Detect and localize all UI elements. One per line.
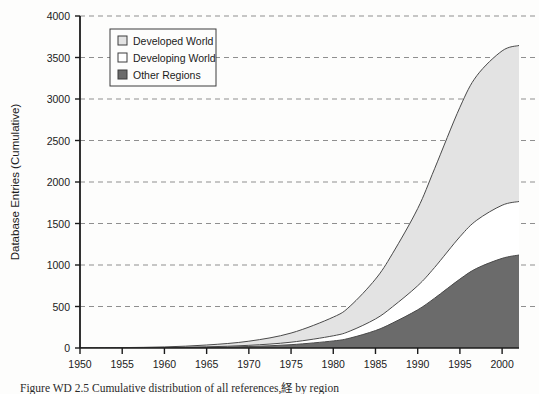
figure-container: 40003500300025002000150010005000 1950195…	[0, 0, 539, 394]
x-tick-label: 1950	[68, 358, 92, 370]
y-tick-label: 0	[64, 342, 70, 354]
x-tick-label: 1970	[237, 358, 261, 370]
legend-item-label: Developing World	[133, 52, 216, 64]
y-axis-tick-labels: 40003500300025002000150010005000	[47, 10, 71, 354]
legend-swatch	[118, 53, 127, 62]
x-tick-label: 1990	[406, 358, 430, 370]
y-tick-label: 3000	[47, 93, 71, 105]
x-tick-label: 2000	[490, 358, 514, 370]
legend-swatch	[118, 36, 127, 45]
x-tick-label: 1955	[111, 358, 135, 370]
y-tick-label: 2000	[47, 176, 71, 188]
legend-swatch	[118, 70, 127, 79]
legend-item-label: Other Regions	[133, 69, 201, 81]
x-tick-label: 1980	[322, 358, 346, 370]
legend-item-label: Developed World	[133, 35, 214, 47]
x-axis-ticks	[80, 348, 502, 354]
y-tick-label: 2500	[47, 135, 71, 147]
x-tick-label: 1960	[153, 358, 177, 370]
x-tick-label: 1975	[279, 358, 303, 370]
chart-legend: Developed WorldDeveloping WorldOther Reg…	[110, 29, 216, 86]
y-tick-label: 500	[52, 301, 70, 313]
x-tick-label: 1965	[195, 358, 219, 370]
cumulative-area-chart: 40003500300025002000150010005000 1950195…	[0, 0, 539, 394]
y-tick-label: 1500	[47, 218, 71, 230]
x-tick-label: 1985	[364, 358, 388, 370]
y-tick-label: 1000	[47, 259, 71, 271]
y-axis-title: Database Entries (Cumulative)	[9, 104, 21, 261]
y-tick-label: 3500	[47, 52, 71, 64]
y-tick-label: 4000	[47, 10, 71, 22]
x-tick-label: 1995	[448, 358, 472, 370]
figure-caption: Figure WD 2.5 Cumulative distribution of…	[20, 382, 339, 394]
x-axis-tick-labels: 1950195519601965197019751980198519901995…	[68, 358, 514, 370]
